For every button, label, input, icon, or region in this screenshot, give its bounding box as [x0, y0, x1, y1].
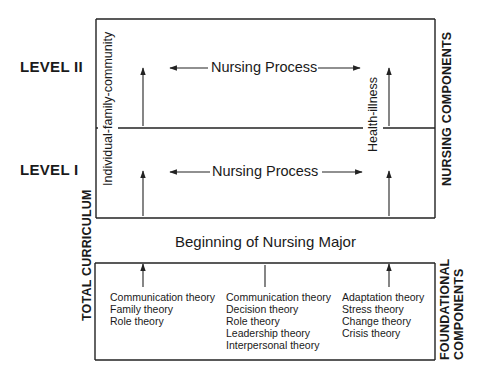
theory-item: Communication theory: [110, 291, 215, 303]
foundational-components-label: FOUNDATIONAL COMPONENTS: [438, 259, 466, 360]
nursing-process-label-level-ii: Nursing Process: [210, 59, 318, 75]
theory-column-2: Communication theory Decision theory Rol…: [226, 291, 331, 351]
theory-column-3: Adaptation theory Stress theory Change t…: [342, 291, 424, 339]
theory-item: Change theory: [342, 315, 424, 327]
nursing-components-box: [96, 19, 435, 218]
theory-item: Stress theory: [342, 303, 424, 315]
level-i-label: LEVEL I: [20, 161, 79, 178]
theory-item: Adaptation theory: [342, 291, 424, 303]
health-illness-label: Health-illness: [366, 77, 380, 152]
theory-column-1: Communication theory Family theory Role …: [110, 291, 215, 327]
foundational-arrows: [143, 264, 389, 287]
foundational-label-line1: FOUNDATIONAL: [438, 259, 452, 360]
nursing-process-arrows: [170, 68, 362, 172]
theory-item: Decision theory: [226, 303, 331, 315]
progression-arrows: [143, 68, 389, 216]
nursing-components-label: NURSING COMPONENTS: [440, 32, 454, 186]
theory-item: Role theory: [110, 315, 215, 327]
theory-item: Role theory: [226, 315, 331, 327]
individual-family-community-label: Individual-family-community: [101, 32, 115, 186]
foundational-label-line2: COMPONENTS: [452, 259, 466, 360]
theory-item: Leadership theory: [226, 327, 331, 339]
nursing-process-label-level-i: Nursing Process: [211, 163, 319, 179]
theory-item: Communication theory: [226, 291, 331, 303]
beginning-of-nursing-major-label: Beginning of Nursing Major: [175, 233, 356, 250]
theory-item: Family theory: [110, 303, 215, 315]
theory-item: Crisis theory: [342, 327, 424, 339]
theory-item: Interpersonal theory: [226, 339, 331, 351]
total-curriculum-label: TOTAL CURRICULUM: [80, 189, 94, 321]
level-ii-label: LEVEL II: [20, 58, 83, 75]
